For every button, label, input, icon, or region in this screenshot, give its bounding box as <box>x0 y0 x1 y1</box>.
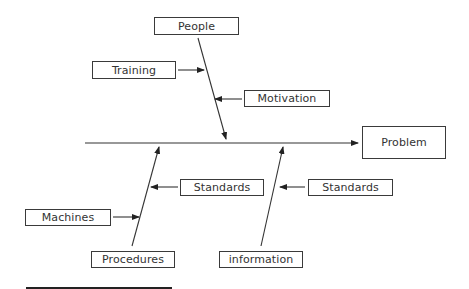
effect-box-problem: Problem <box>362 126 446 159</box>
subcause-box-motivation: Motivation <box>244 90 330 107</box>
cause-label: Procedures <box>102 254 164 265</box>
cause-label: information <box>229 254 294 265</box>
subcause-box-machines: Machines <box>25 209 111 226</box>
subcause-box-standards-right: Standards <box>308 179 393 196</box>
footnote-rule <box>26 287 172 289</box>
information-bone <box>261 147 283 246</box>
subcause-label: Training <box>112 65 156 76</box>
effect-label: Problem <box>381 137 427 148</box>
subcause-label: Machines <box>42 212 95 223</box>
cause-box-information: information <box>219 251 303 268</box>
procedures-bone <box>132 147 159 246</box>
subcause-box-training: Training <box>92 61 176 79</box>
subcause-label: Standards <box>194 182 251 193</box>
cause-box-procedures: Procedures <box>91 251 175 268</box>
cause-box-people: People <box>154 17 239 35</box>
subcause-label: Motivation <box>258 93 317 104</box>
cause-label: People <box>178 21 215 32</box>
subcause-label: Standards <box>322 182 379 193</box>
subcause-box-standards-left: Standards <box>180 179 264 196</box>
people-bone <box>198 38 226 139</box>
